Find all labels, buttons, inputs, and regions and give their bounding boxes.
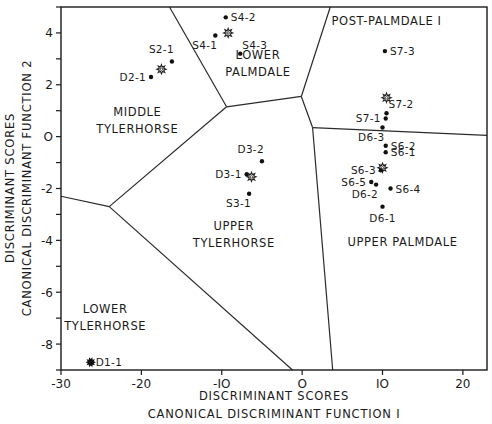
x-axis-title-line2: CANONICAL DISCRIMINANT FUNCTION I: [148, 407, 401, 421]
data-point-label: S7-2: [389, 98, 414, 110]
region-label: UPPER PALMDALE: [348, 235, 458, 249]
y-axis-title-line2: CANONICAL DISCRIMINANT FUNCTION 2: [20, 60, 34, 317]
data-point-dot: [379, 168, 383, 172]
region-label: UPPER: [214, 219, 255, 233]
boundary-line: [301, 7, 330, 96]
data-point-dot: [384, 111, 388, 115]
data-point-label: S7-3: [390, 45, 415, 57]
boundary-line: [313, 128, 487, 136]
x-tick-label: -20: [132, 377, 152, 391]
data-point-dot: [238, 51, 242, 55]
data-point-dot: [369, 180, 373, 184]
region-label: TYLERHORSE: [95, 122, 178, 136]
data-point-label: D3-2: [238, 143, 264, 155]
region-label: PALMDALE: [225, 65, 290, 79]
data-point-dot: [380, 125, 384, 129]
data-point-label: S6-4: [396, 183, 421, 195]
region-labels: MIDDLETYLERHORSELOWERPALMDALEPOST-PALMDA…: [63, 14, 457, 333]
y-tick-label: O: [44, 130, 53, 144]
data-point-label: S6-5: [341, 176, 366, 188]
data-point-label: S2-1: [149, 43, 174, 55]
data-point-label: D6-3: [358, 131, 384, 143]
data-point-label: S3-1: [226, 197, 251, 209]
y-tick-label: 2: [45, 78, 53, 92]
boundary-line: [313, 128, 333, 370]
region-label: POST-PALMDALE I: [332, 14, 442, 28]
y-tick-label: -6: [41, 286, 53, 300]
region-label: TYLERHORSE: [63, 319, 146, 333]
data-point-label: D3-1: [215, 168, 241, 180]
boundary-line: [61, 196, 109, 206]
data-point-dot: [149, 75, 153, 79]
data-point-label: D6-2: [352, 188, 378, 200]
data-point-dot: [213, 33, 217, 37]
boundary-line: [227, 96, 302, 106]
data-point-label: D1-1: [96, 356, 122, 368]
data-point-dot: [380, 204, 384, 208]
y-tick-label: -4: [41, 234, 53, 248]
region-label: LOWER: [83, 302, 128, 316]
data-point-label: S4-1: [192, 39, 217, 51]
boundary-line: [170, 7, 227, 107]
x-tick-label: -30: [51, 377, 71, 391]
data-point-label: D6-1: [369, 212, 395, 224]
data-point-dot: [247, 191, 251, 195]
x-tick-label: IO: [376, 377, 389, 391]
y-tick-label: 4: [45, 26, 53, 40]
y-axis-title-line1: DISCRIMINANT SCORES: [3, 113, 17, 263]
data-point-dot: [374, 182, 378, 186]
y-tick-label: -2: [41, 182, 53, 196]
region-label: MIDDLE: [113, 105, 161, 119]
data-point-dot: [260, 159, 264, 163]
data-point-dot: [224, 15, 228, 19]
data-point-dot: [384, 144, 388, 148]
data-point-label: S6-1: [391, 146, 416, 158]
burst-marker-icon: [86, 357, 96, 367]
data-point-label: S6-3: [351, 164, 376, 176]
data-point-dot: [384, 116, 388, 120]
data-point-label: D2-1: [120, 71, 146, 83]
region-label: TYLERHORSE: [192, 236, 275, 250]
y-tick-label: -8: [41, 338, 53, 352]
data-point-label: S4-2: [231, 11, 256, 23]
data-point-label: S4-3: [242, 39, 267, 51]
boundary-line: [301, 96, 312, 127]
data-point-dot: [384, 150, 388, 154]
discriminant-scatter-chart: -30-20-IOOIO2042O-2-4-6-8 MIDDLETYLERHOR…: [0, 0, 492, 424]
data-point-dot: [388, 186, 392, 190]
data-point-label: S7-1: [356, 112, 381, 124]
data-point-dot: [383, 49, 387, 53]
x-axis-title-line1: DISCRIMINANT SCORES: [199, 389, 349, 403]
boundary-line: [109, 207, 292, 370]
data-point-dot: [170, 59, 174, 63]
x-tick-label: 20: [455, 377, 470, 391]
